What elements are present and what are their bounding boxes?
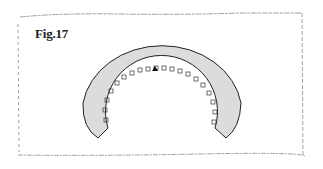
figure-label: Fig.17 xyxy=(35,26,68,42)
center-marker-icon xyxy=(152,66,158,71)
notch-marks xyxy=(103,66,217,124)
horseshoe-shape xyxy=(83,46,241,138)
